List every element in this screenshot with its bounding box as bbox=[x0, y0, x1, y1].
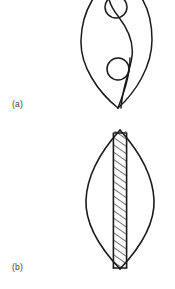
figure-root: (a) (b) bbox=[0, 0, 175, 289]
figure-background bbox=[0, 0, 175, 289]
panel-label-b: (b) bbox=[12, 262, 23, 272]
panel-b-hatched-band-fill bbox=[113, 131, 127, 268]
figure-canvas bbox=[0, 0, 175, 289]
panel-label-a: (a) bbox=[12, 99, 23, 109]
